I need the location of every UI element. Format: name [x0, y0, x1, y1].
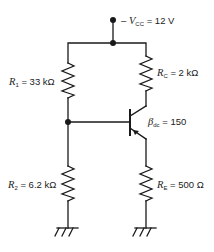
beta-label: βdc = 150	[148, 117, 186, 128]
resistor-r2	[62, 122, 74, 228]
npn-transistor	[130, 106, 146, 139]
resistor-r1	[62, 63, 74, 122]
vcc-terminal	[110, 17, 116, 46]
vcc-label: – VCC = 12 V	[121, 16, 174, 27]
top-rail-wire	[68, 43, 146, 63]
base-junction	[65, 119, 130, 125]
re-label: RE = 500 Ω	[157, 180, 204, 191]
r2-label: R2 = 6.2 kΩ	[8, 180, 56, 191]
circuit-diagram: – VCC = 12 V R1 = 33 kΩ RC = 2 kΩ βdc = …	[0, 0, 214, 252]
r1-label: R1 = 33 kΩ	[9, 77, 55, 88]
resistor-rc	[140, 56, 152, 106]
resistor-re	[140, 139, 152, 228]
ground-icon	[133, 228, 156, 236]
ground-icon	[55, 228, 78, 236]
rc-label: RC = 2 kΩ	[157, 68, 198, 79]
